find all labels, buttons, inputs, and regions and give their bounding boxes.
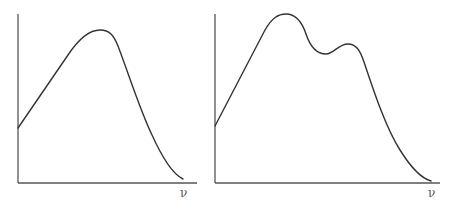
figure: ν ν bbox=[0, 0, 452, 205]
right-spectrum-curve bbox=[215, 14, 431, 181]
left-x-axis-label: ν bbox=[180, 186, 187, 200]
right-panel: ν bbox=[215, 14, 440, 200]
right-x-axis-label: ν bbox=[428, 186, 435, 200]
left-panel: ν bbox=[18, 14, 197, 200]
left-spectrum-curve bbox=[18, 30, 183, 179]
